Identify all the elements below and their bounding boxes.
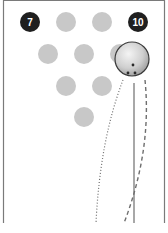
pin-1 (74, 107, 94, 127)
pin-3 (92, 76, 112, 96)
pin-9 (92, 12, 112, 32)
bowling-diagram: 710 (0, 0, 168, 233)
knocked-pin-icon (56, 76, 76, 96)
pin-8 (56, 12, 76, 32)
pin-2 (56, 76, 76, 96)
knocked-pin-icon (56, 12, 76, 32)
pin-number-label: 7 (27, 17, 33, 28)
pin-10: 10 (128, 12, 148, 32)
pin-7: 7 (20, 12, 40, 32)
pin-5 (74, 44, 94, 64)
knocked-pin-icon (92, 76, 112, 96)
knocked-pin-icon (74, 107, 94, 127)
ball-paths (96, 80, 146, 223)
thumb-hole (134, 72, 137, 75)
finger-hole (132, 64, 135, 67)
knocked-pin-icon (92, 12, 112, 32)
finger-hole (127, 72, 130, 75)
dashed-path (124, 80, 146, 223)
bowling-ball (115, 42, 149, 76)
knocked-pin-icon (38, 44, 58, 64)
knocked-pin-icon (74, 44, 94, 64)
pin-number-label: 10 (132, 17, 144, 28)
dotted-path (96, 80, 123, 223)
pin-4 (38, 44, 58, 64)
